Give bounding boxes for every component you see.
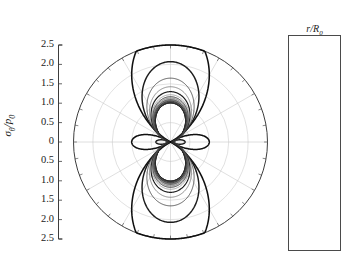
radial-tick-label: 0.5 (20, 116, 54, 127)
radial-tick-label: 2.5 (20, 232, 54, 243)
radial-tick-label: 0 (20, 135, 54, 146)
radial-tick-label: 1.5 (20, 77, 54, 88)
radial-tick-label: 1.0 (20, 96, 54, 107)
radial-tick-label: 2.0 (20, 213, 54, 224)
radial-tick-label: 2.0 (20, 57, 54, 68)
radial-tick-label: 1.5 (20, 193, 54, 204)
radial-axis-ticks (59, 45, 63, 239)
radial-tick-label: 2.5 (20, 38, 54, 49)
legend[interactable] (288, 35, 341, 251)
y-axis-label: σθ/p0 (1, 103, 16, 149)
radial-tick-label: 1.0 (20, 174, 54, 185)
radial-tick-label: 0.5 (20, 154, 54, 165)
